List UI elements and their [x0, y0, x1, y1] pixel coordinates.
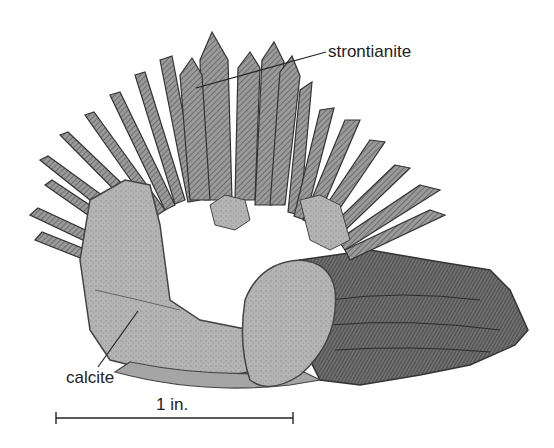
calcite-label: calcite	[66, 368, 114, 388]
mineral-illustration: strontianite calcite 1 in.	[0, 0, 554, 448]
strontianite-label: strontianite	[328, 42, 411, 62]
scale-bar-label: 1 in.	[156, 395, 188, 415]
